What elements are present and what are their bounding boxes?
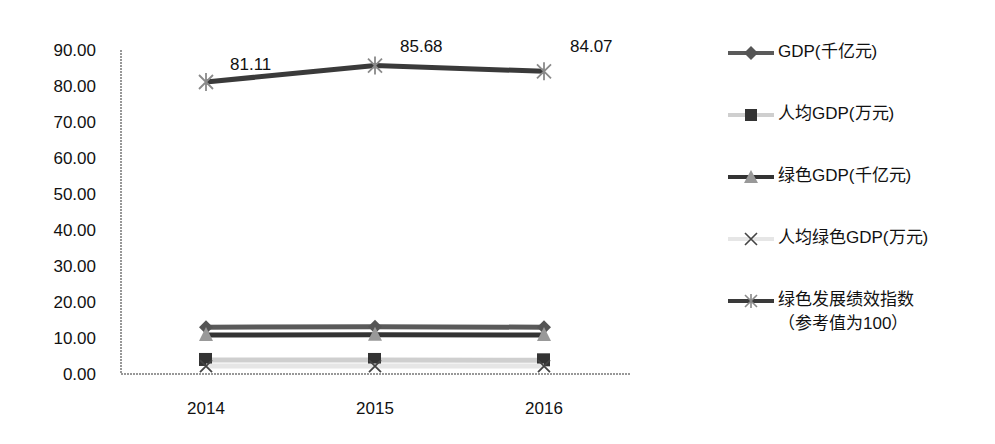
legend-label: 绿色GDP(千亿元): [778, 164, 911, 188]
y-tick-label: 10.00: [53, 329, 96, 348]
y-tick-label: 30.00: [53, 257, 96, 276]
legend: GDP(千亿元) 人均GDP(万元) 绿色GDP(千亿元) 人均绿色GDP(万元…: [726, 40, 995, 350]
triangle-marker-icon: [726, 164, 776, 190]
y-tick-label: 20.00: [53, 293, 96, 312]
y-tick-label: 70.00: [53, 113, 96, 132]
y-tick-label: 90.00: [53, 41, 96, 60]
x-axis: 201420152016: [121, 374, 630, 418]
series-line: 81.1185.6884.07: [199, 37, 613, 91]
square-marker-icon: [726, 102, 776, 128]
legend-item-green-gdp-per-capita: 人均绿色GDP(万元): [726, 226, 995, 288]
data-label: 84.07: [570, 37, 613, 56]
x-tick-label: 2016: [525, 399, 563, 418]
y-tick-label: 50.00: [53, 185, 96, 204]
y-tick-label: 0.00: [63, 365, 96, 384]
legend-item-green-gdp: 绿色GDP(千亿元): [726, 164, 995, 226]
y-tick-label: 40.00: [53, 221, 96, 240]
data-label: 85.68: [400, 37, 443, 56]
y-tick-label: 80.00: [53, 77, 96, 96]
legend-label: 人均GDP(万元): [778, 102, 894, 126]
diamond-marker-icon: [726, 40, 776, 66]
x-tick-label: 2014: [187, 399, 225, 418]
legend-label: GDP(千亿元): [778, 40, 877, 64]
star-marker-icon: [726, 288, 776, 314]
legend-item-gdp-per-capita: 人均GDP(万元): [726, 102, 995, 164]
y-tick-label: 60.00: [53, 149, 96, 168]
y-axis: 0.0010.0020.0030.0040.0050.0060.0070.008…: [53, 41, 121, 384]
x-tick-label: 2015: [356, 399, 394, 418]
legend-item-green-development-index: 绿色发展绩效指数 （参考值为100）: [726, 288, 995, 350]
x-marker-icon: [726, 226, 776, 252]
legend-label: 绿色发展绩效指数 （参考值为100）: [778, 288, 914, 336]
plot-area: 81.1185.6884.07: [199, 37, 613, 372]
legend-item-gdp: GDP(千亿元): [726, 40, 995, 102]
data-label: 81.11: [230, 55, 271, 74]
legend-label: 人均绿色GDP(万元): [778, 226, 928, 250]
